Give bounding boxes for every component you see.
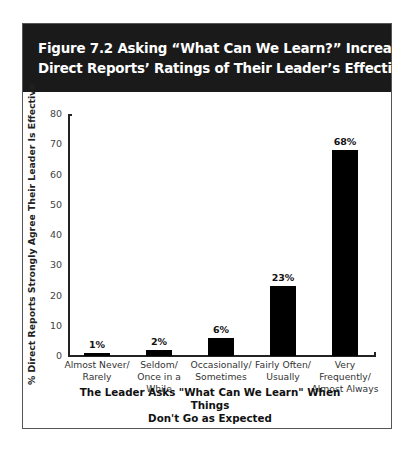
x-axis-label-line-1: The Leader Asks "What Can We Learn" When… — [60, 386, 360, 412]
y-tick-label: 30 — [42, 259, 62, 270]
y-tick-label: 70 — [42, 138, 62, 149]
y-axis-line — [68, 114, 70, 356]
bar — [84, 353, 110, 356]
y-tick-label: 50 — [42, 199, 62, 210]
y-tick-label: 10 — [42, 320, 62, 331]
x-axis-label-line-2: Don't Go as Expected — [60, 412, 360, 425]
y-tick-label: 20 — [42, 290, 62, 301]
x-category-label-line: Rarely — [62, 371, 132, 383]
x-category-label-line: Occasionally/ — [186, 359, 256, 371]
y-tick-label: 60 — [42, 169, 62, 180]
y-tick-label: 0 — [42, 350, 62, 361]
y-tick-label: 80 — [42, 108, 62, 119]
figure-header: Figure 7.2 Asking “What Can We Learn?” I… — [23, 24, 391, 92]
x-category-label: Almost Never/Rarely — [62, 359, 132, 383]
y-tick-label: 40 — [42, 229, 62, 240]
x-category-label-line: Sometimes — [186, 371, 256, 383]
bar — [332, 150, 358, 356]
bar — [208, 338, 234, 356]
bar-value-label: 1% — [72, 339, 122, 350]
x-category-label: Fairly Often/Usually — [248, 359, 318, 383]
figure-title-line-2: Direct Reports’ Ratings of Their Leader’… — [38, 59, 377, 79]
x-axis-cap — [374, 352, 376, 356]
bar — [270, 286, 296, 356]
bar-value-label: 6% — [196, 324, 246, 335]
bar-value-label: 23% — [258, 272, 308, 283]
x-category-label-line: Fairly Often/ — [248, 359, 318, 371]
x-category-label-line: Very Frequently/ — [310, 359, 380, 383]
x-category-label-line: Seldom/ — [124, 359, 194, 371]
y-axis-label: % Direct Reports Strongly Agree Their Le… — [26, 115, 37, 385]
y-axis-cap — [68, 114, 72, 116]
x-category-label: Occasionally/Sometimes — [186, 359, 256, 383]
bar — [146, 350, 172, 356]
bar-value-label: 2% — [134, 336, 184, 347]
figure-title-line-1: Figure 7.2 Asking “What Can We Learn?” I… — [38, 39, 377, 59]
x-axis-label: The Leader Asks "What Can We Learn" When… — [60, 386, 360, 425]
x-category-label-line: Almost Never/ — [62, 359, 132, 371]
bar-value-label: 68% — [320, 136, 370, 147]
x-category-label-line: Usually — [248, 371, 318, 383]
